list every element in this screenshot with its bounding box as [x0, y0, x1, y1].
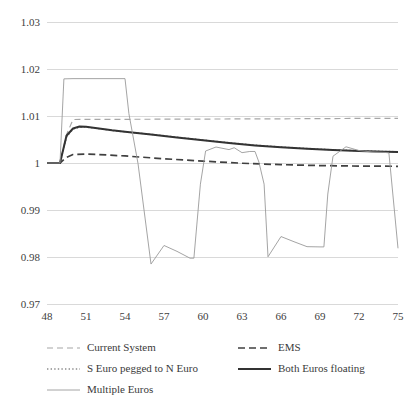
legend: Current SystemEMSS Euro pegged to N Euro…	[47, 341, 365, 395]
chart-svg: 1.031.021.0110.990.980.97 48515457606366…	[0, 0, 409, 406]
series-line	[47, 154, 398, 166]
legend-item-label: Both Euros floating	[278, 362, 365, 374]
series-line	[47, 127, 398, 163]
legend-item[interactable]: Both Euros floating	[238, 362, 365, 374]
y-axis-labels: 1.031.021.0110.990.980.97	[21, 16, 41, 310]
y-axis-tick-label: 1.02	[21, 63, 40, 75]
legend-item[interactable]: Current System	[47, 341, 156, 353]
series-line	[47, 79, 398, 264]
x-axis-tick-label: 54	[120, 310, 132, 322]
legend-item[interactable]: Multiple Euros	[47, 383, 153, 395]
legend-item-label: Multiple Euros	[87, 383, 153, 395]
x-axis-tick-label: 57	[159, 310, 171, 322]
x-axis-tick-label: 69	[315, 310, 327, 322]
y-axis-tick-label: 0.98	[21, 251, 41, 263]
x-axis-tick-label: 48	[42, 310, 54, 322]
legend-item-label: Current System	[87, 341, 156, 353]
x-axis-labels: 48515457606366697275	[42, 310, 405, 322]
legend-item[interactable]: S Euro pegged to N Euro	[47, 362, 198, 374]
legend-item-label: EMS	[278, 341, 301, 353]
x-axis-tick-label: 63	[237, 310, 249, 322]
data-series-group	[47, 79, 398, 264]
legend-item[interactable]: EMS	[238, 341, 301, 353]
x-axis-tick-label: 72	[354, 310, 365, 322]
y-axis-tick-label: 1.03	[21, 16, 41, 28]
x-axis-tick-label: 66	[276, 310, 288, 322]
y-axis-tick-label: 1	[35, 157, 41, 169]
y-axis-tick-label: 0.97	[21, 298, 41, 310]
x-axis-tick-label: 51	[81, 310, 92, 322]
x-axis-tick-label: 60	[198, 310, 210, 322]
series-line	[47, 118, 398, 163]
y-axis-tick-label: 0.99	[21, 204, 41, 216]
y-axis-tick-label: 1.01	[21, 110, 40, 122]
line-chart: 1.031.021.0110.990.980.97 48515457606366…	[0, 0, 409, 406]
x-axis-tick-label: 75	[393, 310, 405, 322]
series-line	[47, 127, 398, 163]
legend-item-label: S Euro pegged to N Euro	[87, 362, 198, 374]
